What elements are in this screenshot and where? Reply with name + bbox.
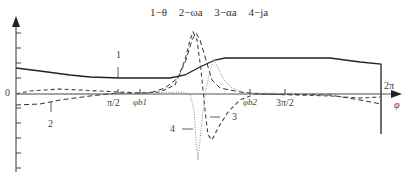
x-tick-label-pi-half: π/2: [107, 97, 120, 108]
x-axis-label: φ: [394, 99, 400, 110]
annotation-1: 1: [116, 49, 121, 60]
series-3-alpha: [16, 32, 381, 140]
chart-svg: [0, 0, 408, 178]
x-tick-label-phi-b1: φb1: [133, 97, 147, 107]
legend-entry-4: 4−ja: [248, 6, 268, 18]
chart-legend: 1−θ 2−ωa 3−αa 4−ja: [150, 6, 277, 18]
legend-entry-1: 1−θ: [150, 6, 167, 18]
x-axis-arrow-icon: [391, 90, 402, 98]
origin-label: 0: [5, 87, 10, 98]
legend-entry-2: 2−ωa: [179, 6, 203, 18]
annotation-4: 4: [170, 123, 175, 134]
y-ticks: [16, 33, 21, 168]
y-axis-arrow-icon: [12, 16, 20, 27]
annotation-3: 3: [232, 111, 237, 122]
annotation-2: 2: [48, 118, 53, 129]
x-tick-label-3pi-half: 3π/2: [276, 97, 294, 108]
legend-entry-3: 3−αa: [214, 6, 236, 18]
x-tick-label-2pi: 2π: [384, 80, 394, 91]
x-tick-label-phi-b2: φb2: [243, 97, 257, 107]
